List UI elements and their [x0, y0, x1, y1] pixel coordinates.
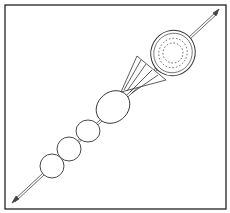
fruit-ball-2: [57, 137, 81, 161]
fruit-skewer-illustration: [0, 0, 230, 213]
fruit-ball-3: [76, 120, 100, 142]
round-fruits: [40, 84, 136, 178]
